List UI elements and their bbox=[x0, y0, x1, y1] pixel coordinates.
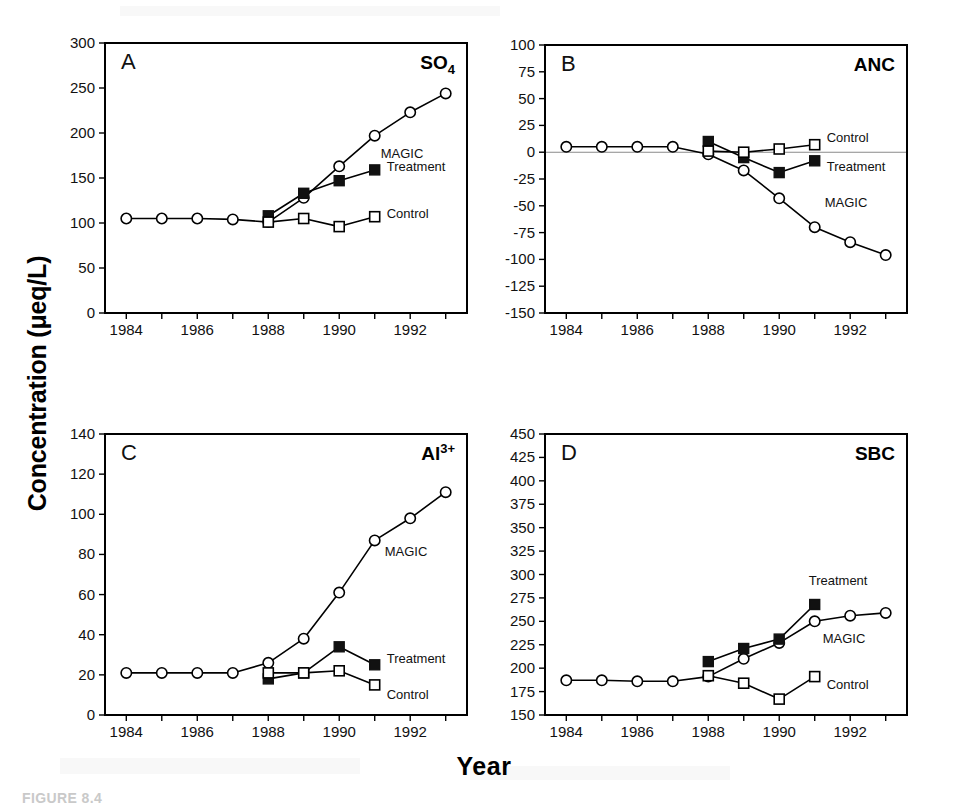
data-point-treatment bbox=[299, 188, 309, 198]
x-tick-label: 1990 bbox=[763, 321, 796, 338]
y-tick-label: -75 bbox=[513, 224, 535, 241]
y-tick-label: -125 bbox=[505, 277, 535, 294]
y-tick-label: 425 bbox=[510, 448, 535, 465]
data-point-magic bbox=[157, 668, 167, 678]
data-point-magic bbox=[334, 587, 344, 597]
y-tick-label: -150 bbox=[505, 304, 535, 321]
data-point-control bbox=[703, 146, 713, 156]
series-label-control: Control bbox=[827, 677, 869, 692]
y-tick-label: 25 bbox=[518, 116, 535, 133]
y-tick-label: 40 bbox=[78, 626, 95, 643]
data-point-treatment bbox=[703, 657, 713, 667]
data-point-magic bbox=[441, 88, 451, 98]
y-tick-label: 80 bbox=[78, 545, 95, 562]
series-label-treatment: Treatment bbox=[387, 651, 446, 666]
y-tick-label: 375 bbox=[510, 495, 535, 512]
x-tick-label: 1986 bbox=[181, 321, 214, 338]
data-point-magic bbox=[561, 675, 571, 685]
y-tick-label: 250 bbox=[510, 612, 535, 629]
data-point-control bbox=[370, 212, 380, 222]
data-point-magic bbox=[881, 250, 891, 260]
panel-C-svg: 02040608010012014019841986198819901992CA… bbox=[0, 390, 484, 735]
y-tick-label: 300 bbox=[510, 566, 535, 583]
panel-B: -150-125-100-75-50-250255075100198419861… bbox=[484, 0, 968, 400]
panel-title: SBC bbox=[855, 443, 895, 464]
panel-letter: B bbox=[561, 51, 576, 76]
figure-root: Concentration (μeq/L) Year FIGURE 8.4 05… bbox=[0, 0, 968, 811]
data-point-magic bbox=[192, 213, 202, 223]
series-line-treatment bbox=[708, 605, 814, 662]
panel-D: 1501752002252502753003253503754004254501… bbox=[484, 390, 968, 735]
series-label-treatment: Treatment bbox=[827, 159, 886, 174]
y-tick-label: 0 bbox=[87, 304, 95, 321]
figure-caption: FIGURE 8.4 bbox=[22, 790, 102, 806]
data-point-control bbox=[299, 214, 309, 224]
data-point-magic bbox=[405, 107, 415, 117]
data-point-magic bbox=[121, 213, 131, 223]
data-point-magic bbox=[845, 611, 855, 621]
data-point-magic bbox=[370, 131, 380, 141]
series-label-treatment: Treatment bbox=[809, 573, 868, 588]
data-point-magic bbox=[739, 165, 749, 175]
series-label-control: Control bbox=[387, 687, 429, 702]
data-point-magic bbox=[774, 193, 784, 203]
y-tick-label: -100 bbox=[505, 250, 535, 267]
data-point-magic bbox=[370, 535, 380, 545]
panel-D-svg: 1501752002252502753003253503754004254501… bbox=[484, 390, 968, 735]
data-point-magic bbox=[121, 668, 131, 678]
data-point-treatment bbox=[810, 600, 820, 610]
series-line-control bbox=[268, 217, 374, 227]
data-point-magic bbox=[668, 142, 678, 152]
y-tick-label: 400 bbox=[510, 472, 535, 489]
data-point-magic bbox=[192, 668, 202, 678]
x-tick-label: 1988 bbox=[692, 321, 725, 338]
series-line-magic bbox=[566, 613, 885, 681]
data-point-treatment bbox=[370, 660, 380, 670]
data-point-magic bbox=[228, 214, 238, 224]
data-point-control bbox=[299, 668, 309, 678]
y-tick-label: 225 bbox=[510, 636, 535, 653]
panel-letter: A bbox=[121, 49, 136, 74]
data-point-control bbox=[334, 666, 344, 676]
panel-letter: D bbox=[561, 440, 577, 465]
data-point-magic bbox=[845, 237, 855, 247]
y-tick-label: 75 bbox=[518, 63, 535, 80]
y-tick-label: 140 bbox=[70, 425, 95, 442]
x-tick-label: 1990 bbox=[323, 321, 356, 338]
y-tick-label: 60 bbox=[78, 586, 95, 603]
y-tick-label: 100 bbox=[70, 214, 95, 231]
series-line-control bbox=[708, 676, 814, 699]
y-tick-label: 350 bbox=[510, 519, 535, 536]
x-tick-label: 1990 bbox=[763, 723, 796, 740]
data-point-magic bbox=[739, 654, 749, 664]
x-tick-label: 1986 bbox=[181, 723, 214, 740]
x-tick-label: 1986 bbox=[621, 321, 654, 338]
y-tick-label: 0 bbox=[527, 143, 535, 160]
x-tick-label: 1984 bbox=[110, 321, 143, 338]
data-point-control bbox=[334, 222, 344, 232]
x-tick-label: 1984 bbox=[550, 321, 583, 338]
data-point-treatment bbox=[774, 634, 784, 644]
data-point-magic bbox=[632, 676, 642, 686]
data-point-control bbox=[810, 140, 820, 150]
series-label-treatment: Treatment bbox=[387, 159, 446, 174]
x-tick-label: 1984 bbox=[550, 723, 583, 740]
y-tick-label: 300 bbox=[70, 34, 95, 51]
y-tick-label: 250 bbox=[70, 79, 95, 96]
y-tick-label: 50 bbox=[78, 259, 95, 276]
panel-B-svg: -150-125-100-75-50-250255075100198419861… bbox=[484, 0, 968, 400]
data-point-magic bbox=[561, 142, 571, 152]
data-point-magic bbox=[810, 222, 820, 232]
data-point-treatment bbox=[334, 176, 344, 186]
series-label-magic: MAGIC bbox=[825, 195, 868, 210]
data-point-treatment bbox=[703, 137, 713, 147]
y-tick-label: 150 bbox=[510, 706, 535, 723]
y-tick-label: 325 bbox=[510, 542, 535, 559]
data-point-control bbox=[370, 680, 380, 690]
y-tick-label: 50 bbox=[518, 90, 535, 107]
data-point-magic bbox=[881, 608, 891, 618]
x-tick-label: 1988 bbox=[692, 723, 725, 740]
x-tick-label: 1992 bbox=[394, 321, 427, 338]
data-point-control bbox=[739, 147, 749, 157]
data-point-magic bbox=[263, 658, 273, 668]
